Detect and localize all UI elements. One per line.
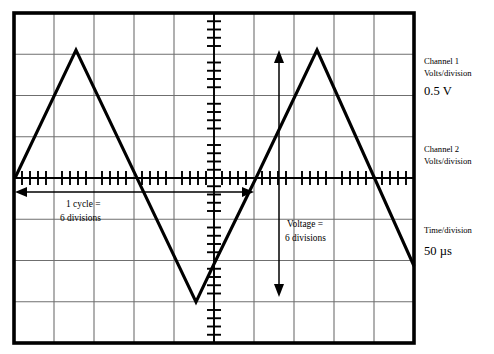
channel-2-readout[interactable]: Channel 2 Volts/division [424, 144, 472, 166]
channel-1-readout[interactable]: Channel 1 Volts/division 0.5 V [424, 56, 472, 98]
amplitude-annotation-line-1: Voltage = [287, 219, 323, 229]
oscilloscope-canvas: 1 cycle = 6 divisions Voltage = 6 divisi… [0, 0, 494, 354]
oscilloscope-figure: 1 cycle = 6 divisions Voltage = 6 divisi… [0, 0, 494, 354]
channel-2-setting: Volts/division [424, 156, 472, 166]
channel-1-name: Channel 1 [424, 56, 459, 66]
amplitude-annotation: Voltage = 6 divisions [285, 219, 326, 243]
channel-1-setting: Volts/division [424, 68, 472, 78]
timebase-readout[interactable]: Time/division 50 µs [424, 225, 473, 258]
amplitude-annotation-line-2: 6 divisions [285, 233, 326, 243]
channel-2-name: Channel 2 [424, 144, 459, 154]
period-annotation-line-2: 6 divisions [60, 213, 101, 223]
channel-1-value: 0.5 V [424, 84, 452, 98]
timebase-setting: Time/division [424, 225, 473, 235]
timebase-value: 50 µs [424, 244, 452, 258]
period-annotation-line-1: 1 cycle = [66, 199, 100, 209]
period-annotation: 1 cycle = 6 divisions [60, 199, 101, 223]
